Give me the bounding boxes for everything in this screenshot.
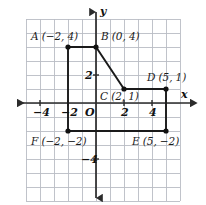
x-axis-label: x [181, 89, 188, 100]
y-axis-label: y [100, 6, 106, 17]
point-label-B: B (0, 4) [101, 31, 139, 42]
point-F [65, 128, 70, 133]
x-tick-label-pos4: 4 [149, 107, 157, 118]
point-label-F: F (−2, −2) [31, 136, 86, 147]
y-tick-label-neg4: −4 [81, 154, 98, 165]
x-tick-label-neg2: −2 [61, 107, 78, 118]
y-tick-label-pos2: 2 [85, 70, 93, 81]
point-E [163, 128, 168, 133]
coordinate-plane-figure: A (−2, 4) B (0, 4) C (2, 1) D (5, 1) E (… [0, 0, 206, 205]
point-label-D: D (5, 1) [147, 72, 186, 83]
point-B [93, 44, 98, 49]
x-tick-label-pos2: 2 [121, 107, 129, 118]
point-label-C: C (2, 1) [100, 91, 139, 102]
point-label-E: E (5, −2) [132, 136, 179, 147]
point-D [163, 86, 168, 91]
point-label-A: A (−2, 4) [31, 31, 78, 42]
point-A [65, 44, 70, 49]
x-tick-label-neg4: −4 [33, 107, 50, 118]
origin-label: O [85, 107, 95, 118]
